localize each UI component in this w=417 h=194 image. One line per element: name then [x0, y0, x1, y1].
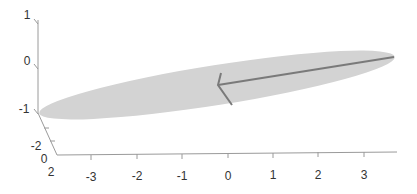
y-tick-label: 0 [41, 152, 48, 166]
z-tick-label: 0 [24, 54, 31, 68]
x-axis [57, 152, 397, 155]
x-tick-label: -3 [86, 170, 97, 184]
y-tick-label: 2 [48, 165, 55, 179]
z-tick [34, 109, 38, 114]
z-tick [34, 64, 38, 69]
plot-area: 1 0 -1 -2 0 2 -3 -2 -1 0 1 2 3 [0, 0, 417, 194]
y-tick-label: -2 [31, 139, 42, 153]
x-tick-label: -1 [177, 169, 188, 183]
x-tick-label: 1 [270, 168, 277, 182]
x-tick-label: 0 [225, 169, 232, 183]
z-tick-label: 1 [24, 8, 31, 22]
x-tick-label: -2 [132, 169, 143, 183]
x-tick-label: 3 [361, 168, 368, 182]
x-tick-label: 2 [315, 168, 322, 182]
z-tick-label: -1 [19, 102, 30, 116]
z-tick [34, 19, 38, 24]
